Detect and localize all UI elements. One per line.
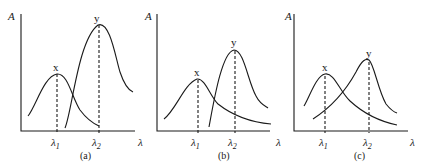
tick-l1-b: λ1 bbox=[190, 136, 200, 151]
x-axis-label-b: λ bbox=[275, 136, 281, 148]
peak-label-x-b: x bbox=[194, 66, 200, 78]
tick-l2-a: λ2 bbox=[91, 136, 101, 151]
x-axis-label-a: λ bbox=[137, 136, 143, 148]
peak-label-x-c: x bbox=[322, 61, 328, 73]
x-axis-label-c: λ bbox=[409, 136, 415, 148]
axes-c bbox=[294, 14, 408, 131]
caption-b: (b) bbox=[218, 150, 230, 162]
peak-label-y-a: y bbox=[94, 12, 100, 24]
panel-c bbox=[294, 14, 408, 133]
caption-a: (a) bbox=[80, 150, 91, 162]
tick-l2-c: λ2 bbox=[362, 136, 372, 151]
tick-l1-a: λ1 bbox=[50, 136, 60, 151]
absorption-spectra-figure: A x y λ1 λ2 λ (a) A x y λ1 λ2 λ (b) A x … bbox=[0, 0, 428, 168]
curve-x-a bbox=[28, 74, 99, 126]
peak-label-y-b: y bbox=[231, 36, 237, 48]
tick-l2-b: λ2 bbox=[227, 136, 237, 151]
peak-label-y-c: y bbox=[366, 47, 372, 59]
curve-y-b bbox=[209, 50, 268, 127]
y-axis-label-b: A bbox=[144, 10, 152, 22]
y-axis-label-a: A bbox=[7, 10, 15, 22]
peak-label-x-a: x bbox=[53, 61, 59, 73]
y-axis-label-c: A bbox=[284, 10, 292, 22]
caption-c: (c) bbox=[354, 150, 365, 162]
panel-a bbox=[21, 14, 135, 133]
axes-b bbox=[157, 14, 270, 131]
panel-b bbox=[157, 14, 271, 133]
tick-l1-c: λ1 bbox=[318, 136, 328, 151]
